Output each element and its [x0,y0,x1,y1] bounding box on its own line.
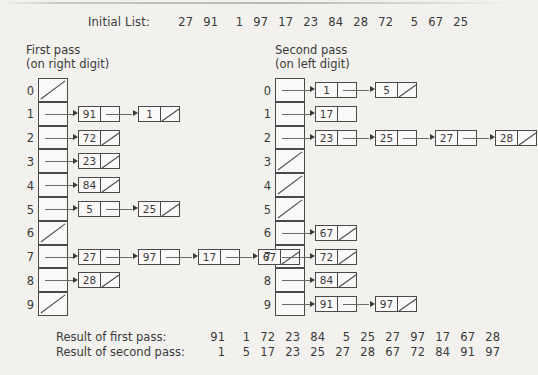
node-next-pointer [397,131,418,147]
node-link-line [226,257,252,258]
node-next-pointer [337,297,358,313]
bucket-index-label: 4 [20,179,34,193]
null-pointer-slash [337,250,358,266]
pointer-arrowhead [370,301,375,307]
initial-list-value: 28 [343,15,368,29]
list-node: 23 [78,153,120,169]
pointer-arrowhead [73,253,78,259]
null-pointer-slash [337,273,358,289]
node-value: 23 [316,131,337,147]
bucket-index-label: 3 [20,155,34,169]
bucket-index-label: 6 [20,226,34,240]
node-next-pointer [100,250,121,266]
node-null-pointer [100,178,121,194]
bucket-index-label: 5 [20,203,34,217]
pointer-arrowhead [370,86,375,92]
pointer-arrowhead [310,110,315,116]
bucket-cell-9 [38,292,68,316]
node-null-pointer [397,297,418,313]
list-node: 28 [78,272,120,288]
list-node: 1 [138,106,180,122]
bucket-pointer-line [282,304,310,305]
node-value: 27 [436,131,457,147]
second-pass-heading-line2: (on left digit) [275,58,350,72]
result-second-pass-value: 97 [475,345,500,359]
node-value: 97 [139,250,160,266]
node-next-pointer [220,250,241,266]
pointer-arrowhead [430,134,435,140]
bucket-pointer-line [282,257,310,258]
bucket-pointer-line [282,114,310,115]
result-second-pass-value: 67 [375,345,400,359]
pointer-arrowhead [73,182,78,188]
result-first-pass-value: 67 [450,330,475,344]
node-null-pointer [100,273,121,289]
null-pointer-slash [337,226,358,242]
pointer-arrowhead [133,205,138,211]
bucket-pointer-line [282,90,310,91]
node-value: 27 [79,250,100,266]
list-node: 97 [375,296,417,312]
node-null-pointer [397,83,418,99]
node-link-line [343,304,369,305]
node-value: 91 [316,297,337,313]
initial-list-values: 2791197172384287256725 [168,15,468,29]
node-null-pointer [517,131,538,147]
node-value: 25 [139,202,160,218]
node-next-pointer [337,131,358,147]
result-first-pass-value: 17 [425,330,450,344]
node-value: 17 [316,107,337,123]
node-link-line [343,90,369,91]
result-first-pass-value: 1 [225,330,250,344]
node-next-pointer [160,250,181,266]
second-pass-heading-line1: Second pass [275,44,350,58]
bucket-index-label: 4 [257,179,271,193]
null-pointer-slash [280,250,301,266]
null-pointer-slash [397,297,418,313]
pointer-arrowhead [310,253,315,259]
bucket-pointer-line [45,257,73,258]
result-first-pass-value: 84 [300,330,325,344]
node-null-pointer [160,107,181,123]
result-second-pass-value: 25 [300,345,325,359]
result-first-pass-value: 97 [400,330,425,344]
node-value: 23 [79,154,100,170]
result-second-pass-value: 1 [200,345,225,359]
initial-list-value: 67 [418,15,443,29]
pointer-arrowhead [310,229,315,235]
first-pass-heading-line1: First pass [26,44,109,58]
bucket-pointer-line [45,209,73,210]
bucket-cell-3 [275,149,305,173]
node-value: 72 [79,131,100,147]
pointer-arrowhead [370,134,375,140]
pointer-arrowhead [490,134,495,140]
initial-list-value: 5 [393,15,418,29]
node-null-pointer [337,250,358,266]
node-link-line [403,138,429,139]
result-first-pass-value: 25 [350,330,375,344]
bucket-pointer-line [45,280,73,281]
result-first-pass-value: 28 [475,330,500,344]
initial-list-value: 23 [293,15,318,29]
null-pointer-slash [100,131,121,147]
bucket-index-label: 1 [20,107,34,121]
node-next-pointer [337,83,358,99]
node-value: 1 [139,107,160,123]
list-node: 67 [315,225,357,241]
node-link-line [463,138,489,139]
bucket-pointer-line [45,185,73,186]
initial-list-value: 25 [443,15,468,29]
bucket-cell-0 [38,78,68,102]
bucket-index-label: 0 [20,84,34,98]
pointer-arrowhead [310,134,315,140]
initial-list-value: 27 [168,15,193,29]
bucket-index-label: 5 [257,203,271,217]
initial-list-value: 97 [243,15,268,29]
node-next-pointer [100,202,121,218]
node-value: 17 [199,250,220,266]
bucket-pointer-line [45,114,73,115]
null-pointer-slash [517,131,538,147]
node-link-line [106,209,132,210]
result-first-pass-value: 27 [375,330,400,344]
